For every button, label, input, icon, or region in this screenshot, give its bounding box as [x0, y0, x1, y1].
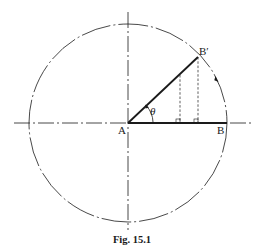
- rotating-radius-diagram: A B B′ θ Fig. 15.1: [0, 0, 264, 249]
- rotation-direction-arrow-icon: [214, 76, 218, 82]
- radius-AB-prime: [128, 57, 198, 123]
- label-B-prime: B′: [199, 45, 209, 57]
- figure-caption: Fig. 15.1: [113, 234, 151, 245]
- label-A: A: [118, 124, 126, 136]
- label-theta: θ: [150, 105, 156, 117]
- label-B: B: [217, 124, 224, 136]
